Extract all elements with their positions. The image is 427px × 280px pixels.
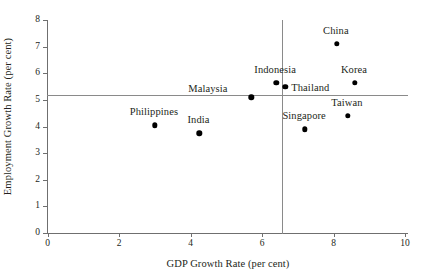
y-tick-label: 1 [22,200,40,210]
data-point[interactable] [274,80,279,85]
data-point-label: Thailand [291,82,329,93]
data-point[interactable] [283,84,288,89]
reference-line-vertical [282,20,283,234]
x-tick-mark [191,233,192,237]
data-point[interactable] [352,80,357,85]
x-tick-mark [405,233,406,237]
y-tick-label: 4 [22,121,40,131]
x-axis-line [47,233,408,234]
data-point[interactable] [345,113,350,118]
x-tick-mark [48,233,49,237]
y-tick-mark [43,153,47,154]
data-point-label: Singapore [282,110,325,121]
data-point[interactable] [334,41,339,46]
y-tick-label: 3 [22,147,40,157]
y-tick-mark [43,20,47,21]
data-point-label: Philippines [130,106,178,117]
y-axis-title: Employment Growth Rate (per cent) [0,0,16,233]
data-point-label: China [323,25,349,36]
x-tick-label: 10 [395,238,415,248]
y-tick-mark [43,47,47,48]
reference-line-horizontal [47,95,408,96]
y-tick-mark [43,206,47,207]
data-point[interactable] [302,126,307,131]
data-point[interactable] [197,130,202,135]
data-point-label: Korea [341,64,367,75]
data-point-label: Indonesia [254,64,296,75]
y-tick-mark [43,73,47,74]
y-tick-label: 2 [22,174,40,184]
y-tick-label: 8 [22,14,40,24]
y-tick-mark [43,100,47,101]
data-point-label: Malaysia [188,83,227,94]
x-tick-label: 6 [252,238,272,248]
x-tick-label: 8 [324,238,344,248]
x-tick-label: 0 [38,238,58,248]
data-point[interactable] [249,95,254,100]
y-tick-label: 6 [22,67,40,77]
x-axis-title: GDP Growth Rate (per cent) [48,258,408,269]
x-tick-label: 2 [109,238,129,248]
scatter-chart: Employment Growth Rate (per cent) GDP Gr… [0,0,427,280]
data-point-label: Taiwan [331,97,362,108]
x-tick-mark [334,233,335,237]
y-tick-mark [43,127,47,128]
data-point[interactable] [152,122,157,127]
x-tick-label: 4 [181,238,201,248]
y-tick-label: 5 [22,94,40,104]
y-axis-line [47,20,48,234]
x-tick-mark [262,233,263,237]
x-tick-mark [119,233,120,237]
data-point-label: India [187,114,209,125]
y-tick-mark [43,233,47,234]
y-tick-label: 7 [22,41,40,51]
y-tick-label: 0 [22,227,40,237]
y-tick-mark [43,180,47,181]
